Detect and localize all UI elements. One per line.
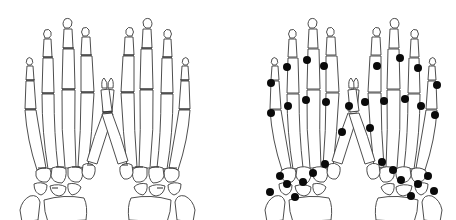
joint-marker-dot — [417, 102, 425, 110]
joint-marker-dot — [322, 98, 330, 106]
hand-skeleton-diagram: Dorsal view of two pairs of hand skeleto… — [0, 0, 456, 220]
diagram-svg — [0, 0, 456, 220]
joint-marker-dot — [389, 166, 397, 174]
joint-marker-dot — [299, 178, 307, 186]
joint-marker-dot — [320, 62, 328, 70]
joint-marker-dot — [433, 81, 441, 89]
joint-marker-dot — [373, 62, 381, 70]
joint-marker-dot — [401, 95, 409, 103]
hand-3-skeleton — [265, 18, 359, 220]
joint-marker-dot — [266, 188, 274, 196]
joint-marker-dot — [345, 102, 353, 110]
joint-marker-dot — [283, 63, 291, 71]
hand-2-skeleton — [101, 18, 195, 220]
joint-marker-dot — [430, 187, 438, 195]
joint-marker-dot — [361, 98, 369, 106]
joint-marker-dot — [431, 111, 439, 119]
joint-marker-dot — [366, 124, 374, 132]
joint-marker-dot — [424, 172, 432, 180]
joint-marker-dot — [321, 160, 329, 168]
joint-marker-dot — [302, 96, 310, 104]
joint-marker-dot — [407, 192, 415, 200]
joint-marker-dot — [380, 97, 388, 105]
hand-4-skeleton — [348, 18, 442, 220]
joint-marker-dot — [291, 193, 299, 201]
joint-marker-dot — [267, 109, 275, 117]
joint-marker-dot — [378, 158, 386, 166]
joint-marker-dot — [283, 180, 291, 188]
joint-marker-dot — [414, 64, 422, 72]
joint-marker-dot — [303, 56, 311, 64]
joint-marker-dot — [276, 172, 284, 180]
joint-marker-dot — [396, 54, 404, 62]
joint-marker-dot — [309, 169, 317, 177]
joint-marker-dot — [414, 180, 422, 188]
joint-marker-dot — [284, 102, 292, 110]
joint-marker-dot — [338, 128, 346, 136]
joint-marker-dot — [397, 176, 405, 184]
hand-1-skeleton — [20, 18, 114, 220]
joint-marker-dot — [267, 79, 275, 87]
